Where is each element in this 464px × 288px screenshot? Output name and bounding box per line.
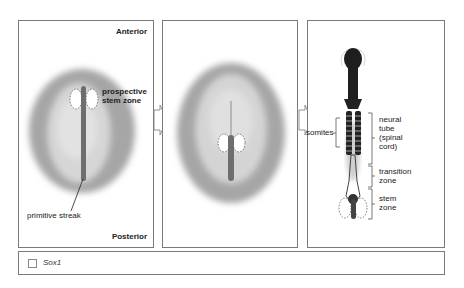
transition-zone-line-2: zone	[379, 176, 411, 185]
legend: Sox1	[18, 251, 445, 275]
neural-tube-line-3: (spinal	[379, 133, 403, 142]
prospective-stem-zone-line-2: stem zone	[102, 96, 147, 105]
somites-label: somites	[306, 128, 334, 137]
prospective-stem-zone-line-1: prospective	[102, 87, 147, 96]
neural-tube-line-2: tube	[379, 124, 403, 133]
neural-tube-line-4: cord)	[379, 142, 403, 151]
stem-zone-line-2: zone	[379, 203, 396, 212]
prospective-stem-zone-label: prospective stem zone	[102, 87, 147, 105]
posterior-label: Posterior	[112, 232, 147, 241]
embryo-stage-2-illustration	[163, 21, 299, 249]
stem-zone-line-1: stem	[379, 194, 396, 203]
transition-zone-label: transition zone	[379, 167, 411, 185]
panel-stage-1: Anterior prospective stem zone primitive…	[18, 20, 154, 248]
transition-zone-line-1: transition	[379, 167, 411, 176]
neural-tube-line-1: neural	[379, 115, 403, 124]
neural-tube-label: neural tube (spinal cord)	[379, 115, 403, 151]
somites-bracket	[333, 118, 340, 147]
legend-swatch-sox1	[28, 259, 37, 268]
zone-brackets	[368, 113, 375, 219]
legend-label-sox1: Sox1	[43, 258, 61, 267]
anterior-label: Anterior	[116, 27, 147, 36]
stem-zone-label: stem zone	[379, 194, 396, 212]
primitive-streak-label: primitive streak	[27, 211, 81, 220]
panel-stage-3: somites neural tube (spinal cord) transi…	[307, 20, 445, 248]
panel-stage-2	[162, 20, 298, 248]
